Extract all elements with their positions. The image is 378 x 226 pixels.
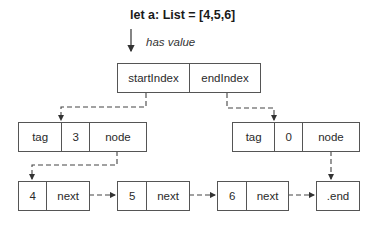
linked-node-6: 6 next: [217, 181, 289, 211]
next-cell: next: [146, 182, 189, 210]
linked-node-5: 5 next: [117, 181, 190, 211]
list-declaration: let a: List = [4,5,6]: [130, 8, 235, 22]
value-cell: 6: [218, 182, 246, 210]
tag-cell: tag: [19, 123, 61, 151]
index-node-end: tag 0 node: [232, 122, 360, 152]
index-node-start: tag 3 node: [18, 122, 147, 152]
value-cell: 4: [19, 182, 46, 210]
next-cell: next: [246, 182, 288, 210]
end-cell: .end: [317, 182, 359, 210]
end-index-arrow: [227, 93, 274, 120]
list-struct-box: startIndex endIndex: [117, 63, 261, 93]
end-index-cell: endIndex: [189, 64, 260, 92]
node-to-first-arrow: [32, 151, 117, 179]
end-node: .end: [316, 181, 360, 211]
node-cell: node: [89, 123, 146, 151]
linked-node-4: 4 next: [18, 181, 90, 211]
index-value-cell: 3: [61, 123, 89, 151]
start-index-arrow: [61, 93, 146, 120]
next-cell: next: [46, 182, 89, 210]
value-cell: 5: [118, 182, 146, 210]
node-cell: node: [302, 123, 359, 151]
tag-cell: tag: [233, 123, 274, 151]
start-index-cell: startIndex: [118, 64, 189, 92]
has-value-label: has value: [146, 36, 195, 48]
index-value-cell: 0: [274, 123, 302, 151]
